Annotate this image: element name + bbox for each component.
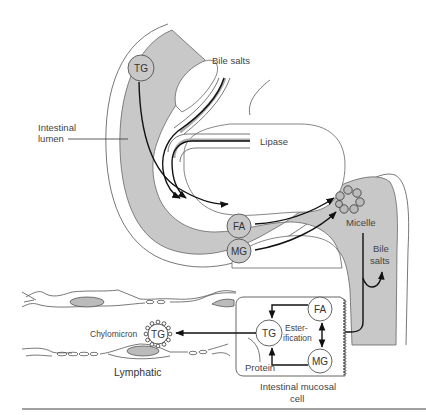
svg-text:Ester-: Ester- (285, 323, 308, 333)
svg-text:cell: cell (290, 393, 304, 404)
cell-mg-node: MG (308, 349, 332, 373)
svg-text:TG: TG (134, 63, 148, 74)
svg-text:MG: MG (312, 356, 328, 367)
svg-text:MG: MG (231, 246, 247, 257)
svg-text:Lymphatic: Lymphatic (114, 366, 161, 378)
svg-text:salts: salts (370, 255, 390, 266)
chylomicron: TG (144, 320, 172, 348)
cell-tg-node: TG (256, 320, 282, 346)
lymphatic-vessel (22, 290, 236, 359)
svg-text:TG: TG (262, 328, 276, 339)
svg-text:Protein: Protein (245, 362, 275, 373)
svg-text:ification: ification (283, 333, 312, 343)
svg-text:Bile: Bile (373, 243, 389, 254)
svg-text:Intestinal: Intestinal (38, 122, 76, 133)
lumen-mg-node: MG (227, 239, 251, 263)
fat-absorption-diagram: TG FA MG Micelle Bile salts FA (0, 0, 426, 415)
lumen-tg-node: TG (128, 55, 154, 81)
svg-text:Intestinal mucosal: Intestinal mucosal (260, 381, 336, 392)
cell-fa-node: FA (308, 297, 332, 321)
svg-text:Chylomicron: Chylomicron (90, 329, 138, 339)
svg-text:TG: TG (151, 329, 165, 340)
intestinal-mucosal-cell: FA TG MG Ester- ification Protein (236, 297, 346, 376)
svg-text:Bile salts: Bile salts (212, 55, 250, 66)
lumen-fa-node: FA (227, 214, 251, 238)
svg-text:FA: FA (233, 221, 246, 232)
svg-text:lumen: lumen (38, 133, 64, 144)
svg-text:Micelle: Micelle (346, 217, 376, 228)
svg-text:Lipase: Lipase (260, 136, 288, 147)
svg-text:FA: FA (314, 304, 327, 315)
